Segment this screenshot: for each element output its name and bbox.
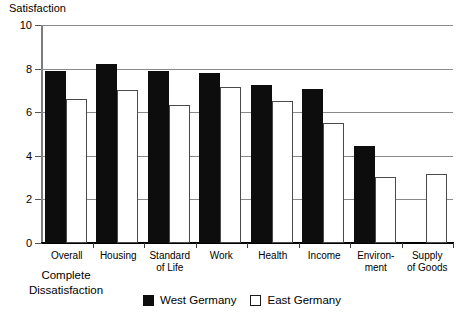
y-tick-label-2: 2 [8, 194, 32, 205]
x-tick-mark [93, 243, 94, 248]
x-tick-mark [350, 243, 351, 248]
bar-east-germany [66, 99, 87, 243]
bar-group [354, 25, 396, 243]
complete-dissatisfaction-note: Complete Dissatisfaction [6, 268, 126, 298]
x-tick-mark [299, 243, 300, 248]
bar-east-germany [220, 87, 241, 243]
bar-west-germany [45, 71, 66, 243]
legend-item-east-germany: East Germany [250, 294, 341, 306]
x-category-label: Standard of Life [144, 250, 196, 274]
bar-group [302, 25, 344, 243]
x-tick-mark [144, 243, 145, 248]
x-category-label: Income [299, 250, 351, 262]
y-tick-label-0: 0 [8, 238, 32, 249]
legend-label: West Germany [160, 294, 236, 306]
y-tick-mark-0 [35, 243, 42, 244]
y-tick-label-10: 10 [8, 20, 32, 31]
bar-group [251, 25, 293, 243]
bar-group [199, 25, 241, 243]
x-tick-mark [402, 243, 403, 248]
legend-swatch-outlined-square-icon [250, 295, 261, 306]
corner-note-line-2: Dissatisfaction [6, 283, 126, 298]
bar-east-germany [117, 90, 138, 243]
satisfaction-bar-chart: Satisfaction 1086420 OverallHousingStand… [0, 0, 462, 319]
bar-west-germany [96, 64, 117, 243]
x-category-label: Supply of Goods [402, 250, 454, 274]
bar-west-germany [251, 85, 272, 243]
y-tick-label-4: 4 [8, 151, 32, 162]
legend-item-west-germany: West Germany [143, 294, 236, 306]
corner-note-line-1: Complete [6, 268, 126, 283]
bar-group [148, 25, 190, 243]
bar-group [405, 25, 447, 243]
bar-group [96, 25, 138, 243]
y-tick-label-6: 6 [8, 107, 32, 118]
bar-west-germany [148, 71, 169, 243]
bar-group [45, 25, 87, 243]
y-tick-label-8: 8 [8, 64, 32, 75]
y-axis-title: Satisfaction [9, 2, 66, 15]
bar-east-germany [323, 123, 344, 243]
x-category-label: Work [196, 250, 248, 262]
bar-east-germany [375, 177, 396, 243]
x-category-label: Environ- ment [350, 250, 402, 274]
x-category-label: Health [247, 250, 299, 262]
x-tick-mark [453, 243, 454, 248]
bar-east-germany [272, 101, 293, 243]
bars-container [41, 25, 453, 243]
bar-east-germany [426, 174, 447, 243]
bar-east-germany [169, 105, 190, 243]
chart-legend: West GermanyEast Germany [143, 294, 341, 306]
x-category-label: Overall [41, 250, 93, 262]
legend-swatch-filled-square-icon [143, 295, 154, 306]
x-tick-mark [247, 243, 248, 248]
bar-west-germany [302, 89, 323, 243]
bar-west-germany [354, 146, 375, 243]
bar-west-germany [199, 73, 220, 243]
x-category-label: Housing [93, 250, 145, 262]
x-tick-mark [196, 243, 197, 248]
legend-label: East Germany [267, 294, 341, 306]
